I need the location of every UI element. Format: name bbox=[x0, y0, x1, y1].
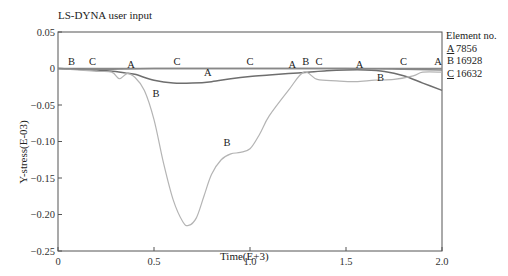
y-tick-label: 0 bbox=[50, 63, 55, 74]
x-tick-label: 0 bbox=[55, 256, 60, 267]
legend-key: B bbox=[446, 55, 455, 68]
y-tick-label: 0.05 bbox=[37, 27, 55, 38]
curve-label-b: B bbox=[377, 72, 384, 83]
y-axis-label: Y-stress(E-03) bbox=[17, 107, 29, 197]
curve-label-a: A bbox=[204, 67, 212, 78]
x-axis-label: Time(E+3) bbox=[220, 250, 269, 262]
chart-canvas: 0.050−0.05−0.10−0.15−0.20−0.25 00.51.01.… bbox=[0, 0, 508, 276]
y-tick-label: −0.25 bbox=[31, 246, 55, 257]
curve-label-c: C bbox=[246, 56, 253, 67]
x-tick-label: 2.0 bbox=[435, 256, 448, 267]
curve-label-b: B bbox=[223, 137, 230, 148]
legend-key: A bbox=[446, 43, 455, 56]
legend-item-c: C16632 bbox=[446, 68, 497, 81]
curve-label-c: C bbox=[400, 56, 407, 67]
curve-label-c: C bbox=[316, 56, 323, 67]
curve-label-a: A bbox=[434, 56, 442, 67]
curve-label-a: A bbox=[127, 59, 135, 70]
y-axis: 0.050−0.05−0.10−0.15−0.20−0.25 bbox=[31, 27, 62, 257]
series-lines bbox=[58, 68, 442, 225]
curve-label-b: B bbox=[68, 56, 75, 67]
x-tick-label: 1.5 bbox=[339, 256, 352, 267]
curve-label-c: C bbox=[174, 56, 181, 67]
legend-value: 7856 bbox=[456, 43, 477, 54]
legend-item-a: A7856 bbox=[446, 43, 497, 56]
y-tick-label: −0.05 bbox=[31, 100, 55, 111]
legend-value: 16632 bbox=[456, 68, 482, 79]
series-line-b bbox=[58, 69, 442, 226]
chart-title: LS-DYNA user input bbox=[58, 9, 152, 21]
curve-label-a: A bbox=[288, 59, 296, 70]
legend-item-b: B16928 bbox=[446, 55, 497, 68]
series-line-c bbox=[58, 68, 442, 70]
y-tick-label: −0.15 bbox=[31, 173, 55, 184]
legend-value: 16928 bbox=[456, 55, 482, 66]
y-tick-label: −0.20 bbox=[31, 209, 55, 220]
curve-label-a: A bbox=[356, 59, 364, 70]
curve-label-b: B bbox=[302, 56, 309, 67]
curve-label-c: C bbox=[89, 56, 96, 67]
curve-label-b: B bbox=[152, 88, 159, 99]
y-tick-label: −0.10 bbox=[31, 136, 55, 147]
x-tick-label: 0.5 bbox=[147, 256, 160, 267]
legend-title: Element no. bbox=[446, 30, 497, 43]
legend-key: C bbox=[446, 68, 455, 81]
legend: Element no. A7856 B16928 C16632 bbox=[446, 30, 497, 80]
